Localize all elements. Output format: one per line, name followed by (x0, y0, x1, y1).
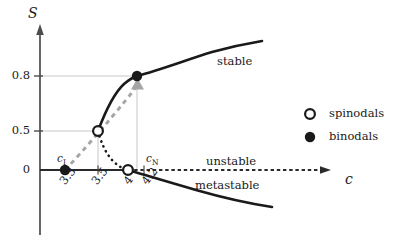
plot-area (0, 0, 399, 252)
metastable-label: metastable (195, 180, 259, 192)
guide-lines (40, 76, 137, 170)
legend-binodals-label: binodals (329, 131, 378, 143)
c-I-label: cI (57, 153, 66, 167)
y-tick-label-0.5: 0.5 (2, 125, 30, 137)
x-axis-arrowhead (320, 166, 331, 174)
c-N-subscript: N (152, 158, 159, 167)
unstable-label: unstable (206, 156, 256, 168)
y-axis (34, 24, 44, 235)
c-N-label: cN (146, 153, 158, 167)
stable-label: stable (217, 56, 252, 68)
spinodal-upper-marker (93, 126, 103, 136)
y-tick-label-0: 0 (2, 164, 30, 176)
phase-diagram-figure: S c 0.8 0.5 0 3.3 3.5 4 4.2 stable unsta… (0, 0, 399, 252)
y-axis-arrowhead (36, 24, 44, 35)
y-tick-label-0.8: 0.8 (2, 70, 30, 82)
y-axis-label: S (28, 6, 38, 20)
c-I-subscript: I (63, 158, 66, 167)
x-axis-label: c (345, 172, 353, 186)
binodal-upper-marker (132, 71, 142, 81)
legend-spinodals-label: spinodals (329, 108, 384, 120)
unstable-branch-curve (98, 131, 128, 170)
legend-spinodals-marker (305, 109, 315, 119)
x-axis (40, 166, 331, 175)
legend-binodals-marker (305, 132, 315, 142)
